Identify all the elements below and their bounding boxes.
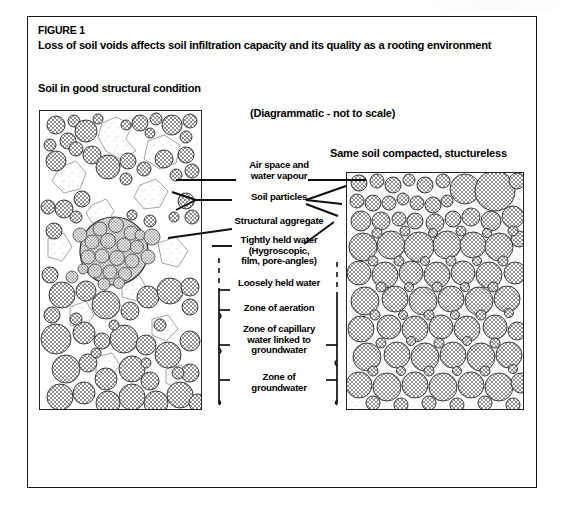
label-zone-of-capillary-water: Zone of capillarywater linked togroundwa…	[224, 324, 334, 356]
soil-panel-good-structure	[39, 110, 202, 410]
label-soil-particles: Soil particles	[224, 192, 334, 203]
figure-title: Loss of soil voids affects soil infiltra…	[38, 39, 491, 51]
label-tightly-held-water: Tightly held water(Hygroscopic,film, por…	[224, 235, 334, 267]
heading-scale-note: (Diagrammatic - not to scale)	[250, 107, 395, 119]
label-column: Air space andwater vapour Soil particles…	[224, 160, 334, 410]
heading-right-panel: Same soil compacted, stuctureless	[330, 147, 507, 159]
figure-number: FIGURE 1	[38, 24, 85, 36]
scan-artifact	[430, 1, 560, 10]
figure-frame: FIGURE 1 Loss of soil voids affects soil…	[27, 16, 537, 488]
label-air-space: Air space andwater vapour	[224, 160, 334, 181]
label-zone-of-groundwater: Zone ofgroundwater	[224, 372, 334, 393]
label-loosely-held-water: Loosely held water	[224, 278, 334, 289]
soil-panel-compacted	[346, 172, 524, 410]
compacted-drawing	[347, 173, 523, 409]
good-structure-drawing	[40, 111, 201, 409]
label-structural-aggregate: Structural aggregate	[224, 216, 334, 227]
heading-left-panel: Soil in good structural condition	[38, 82, 201, 94]
label-zone-of-aeration: Zone of aeration	[224, 303, 334, 314]
